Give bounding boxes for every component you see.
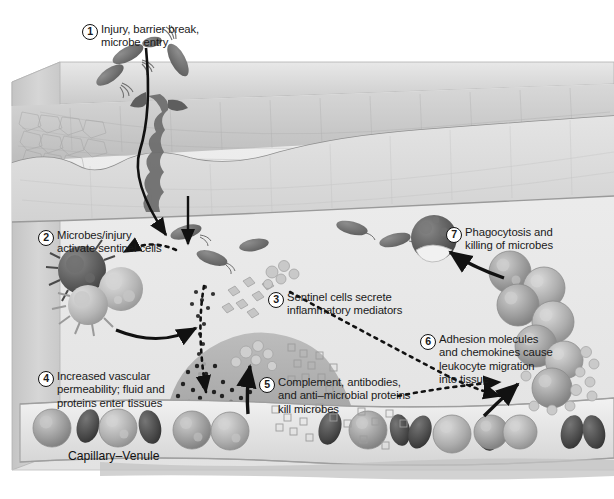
leukocyte-cell [503,415,537,449]
step-2-line-1: Microbes/injury [57,229,131,241]
step-7-line-2: killing of microbes [465,239,553,251]
step-3-line-1: Sentinel cells secrete [287,291,392,303]
step-5-line-2: and anti–microbial proteins [278,389,410,401]
leukocyte-cell [433,415,471,453]
leukocyte-cell [173,411,211,449]
step-1-line-1: Injury, barrier break, [101,23,199,35]
leukocyte-cell [99,409,137,447]
step-label-4: 4Increased vascularpermeability; fluid a… [32,357,165,410]
step-number-2: 2 [38,230,54,246]
step-3-line-2: inflammatory mediators [287,304,402,316]
step-number-7: 7 [446,227,462,243]
step-5-line-3: kill microbes [278,403,339,415]
step-label-5: 5Complement, antibodies,and anti–microbi… [253,363,410,416]
step-label-1: 1Injury, barrier break,microbe entry [76,10,199,50]
step-1-line-2: microbe entry [101,36,168,48]
step-number-1: 1 [82,24,98,40]
step-4-line-1: Increased vascular [57,370,150,382]
figure-canvas: 1Injury, barrier break,microbe entry 2Mi… [0,0,614,499]
leukocyte-cell [349,411,387,449]
step-number-3: 3 [268,292,284,308]
step-number-5: 5 [259,377,275,393]
leukocyte-cell [211,412,249,450]
step-5-line-1: Complement, antibodies, [278,376,401,388]
step-4-line-3: proteins enter tissues [57,397,162,409]
step-2-line-2: activate sentinel cells [57,242,161,254]
step-7-line-1: Phagocytosis and [465,226,553,238]
step-number-4: 4 [38,371,54,387]
step-6-line-4: into tissue [439,373,489,385]
step-6-line-2: and chemokines cause [439,346,553,358]
step-label-3: 3Sentinel cells secreteinflammatory medi… [262,278,402,318]
leukocyte-cell [33,409,71,447]
step-4-line-2: permeability; fluid and [57,383,165,395]
capillary-venule-label: Capillary–Venule [68,449,159,463]
step-6-line-1: Adhesion molecules [439,333,538,345]
step-label-2: 2Microbes/injuryactivate sentinel cells [32,216,162,256]
step-number-6: 6 [420,334,436,350]
step-6-line-3: leukocyte migration [439,360,534,372]
step-label-7: 7Phagocytosis andkilling of microbes [440,213,553,253]
step-label-6: 6Adhesion moleculesand chemokines causel… [414,320,553,386]
